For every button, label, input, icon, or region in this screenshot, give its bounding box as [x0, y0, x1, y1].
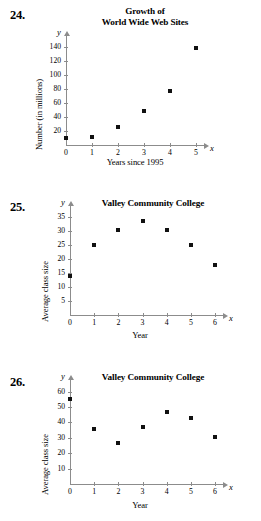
data-point [165, 228, 169, 232]
x-tick [170, 143, 171, 147]
data-point [165, 410, 169, 414]
x-tick-label: 0 [63, 488, 77, 496]
y-tick-label: 50 [46, 403, 65, 411]
y-tick [68, 422, 72, 423]
y-tick [68, 438, 72, 439]
x-tick-label: 3 [137, 149, 151, 157]
x-tick [196, 143, 197, 147]
x-axis [66, 145, 204, 146]
x-tick [118, 482, 119, 486]
data-point [116, 125, 120, 129]
x-tick [191, 482, 192, 486]
data-point [64, 136, 68, 140]
x-tick [191, 313, 192, 317]
data-point [92, 243, 96, 247]
y-tick [64, 47, 68, 48]
y-tick [68, 301, 72, 302]
x-tick-label: 2 [111, 319, 125, 327]
data-point [92, 427, 96, 431]
y-axis-label: Number (in millions) [34, 79, 44, 150]
x-tick [215, 482, 216, 486]
x-tick-label: 5 [184, 319, 198, 327]
x-axis-arrow-icon [204, 143, 209, 149]
x-tick [167, 313, 168, 317]
x-axis-arrow-icon [223, 482, 228, 488]
x-tick [94, 482, 95, 486]
data-point [68, 274, 72, 278]
y-tick [68, 407, 72, 408]
x-tick-label: 1 [87, 488, 101, 496]
y-tick [64, 103, 68, 104]
data-point [141, 219, 145, 223]
x-tick [144, 143, 145, 147]
y-tick-label: 35 [46, 213, 65, 221]
x-axis-arrow-icon [223, 313, 228, 319]
data-point [213, 263, 217, 267]
x-tick-label: 4 [160, 488, 174, 496]
y-axis-letter: y [61, 371, 65, 381]
y-axis-letter: y [61, 197, 65, 207]
y-tick-label: 60 [46, 388, 65, 396]
y-axis-arrow-icon [68, 201, 74, 206]
data-point [68, 397, 72, 401]
x-tick-label: 1 [85, 149, 99, 157]
problem-number: 24. [10, 8, 25, 23]
x-tick-label: 5 [189, 149, 203, 157]
x-tick-label: 0 [63, 319, 77, 327]
y-tick [64, 75, 68, 76]
x-tick [92, 143, 93, 147]
y-tick [68, 469, 72, 470]
y-tick [64, 117, 68, 118]
x-tick-label: 5 [184, 488, 198, 496]
x-axis-letter: x [210, 143, 214, 153]
data-point [116, 441, 120, 445]
y-tick [68, 453, 72, 454]
x-tick-label: 0 [59, 149, 73, 157]
x-tick-label: 6 [208, 488, 222, 496]
x-axis-letter: x [229, 482, 233, 492]
x-tick [215, 313, 216, 317]
y-tick [68, 245, 72, 246]
y-tick-label: 100 [40, 71, 61, 79]
x-axis-label: Year [65, 330, 215, 340]
y-axis-label: Average class size [40, 434, 50, 495]
x-tick-label: 1 [87, 319, 101, 327]
data-point [90, 135, 94, 139]
x-tick-label: 4 [163, 149, 177, 157]
y-tick-label: 25 [46, 241, 65, 249]
x-axis-label: Year [65, 500, 215, 510]
chart-title: Valley Community College [78, 198, 228, 209]
data-point [168, 89, 172, 93]
y-axis [70, 206, 71, 315]
y-axis-label: Average class size [40, 261, 50, 322]
y-tick-label: 40 [46, 418, 65, 426]
problem-number: 26. [10, 375, 25, 390]
chart-title: Valley Community College [78, 372, 228, 383]
x-axis-letter: x [229, 313, 233, 323]
y-axis [66, 36, 67, 145]
y-axis-arrow-icon [68, 375, 74, 380]
data-point [116, 228, 120, 232]
x-tick [118, 143, 119, 147]
data-point [213, 435, 217, 439]
y-axis-letter: y [57, 27, 61, 37]
y-tick [68, 287, 72, 288]
x-tick-label: 3 [136, 488, 150, 496]
y-axis-arrow-icon [64, 31, 70, 36]
data-point [189, 243, 193, 247]
x-axis-label: Years since 1995 [60, 157, 210, 167]
x-tick-label: 2 [111, 488, 125, 496]
y-tick [64, 131, 68, 132]
x-tick [118, 313, 119, 317]
data-point [141, 425, 145, 429]
data-point [194, 46, 198, 50]
data-point [142, 109, 146, 113]
x-tick-label: 3 [136, 319, 150, 327]
y-tick-label: 140 [40, 43, 61, 51]
x-axis [70, 484, 223, 485]
y-tick [68, 259, 72, 260]
x-tick-label: 6 [208, 319, 222, 327]
x-tick [143, 482, 144, 486]
x-tick [143, 313, 144, 317]
x-tick-label: 4 [160, 319, 174, 327]
